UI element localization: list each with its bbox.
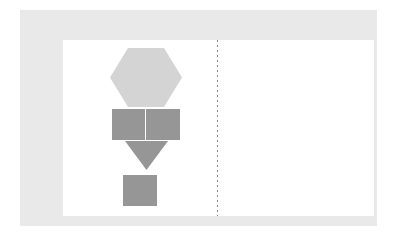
vertical-dotted-divider <box>217 40 218 216</box>
rectangle-left-shape[interactable] <box>112 109 145 140</box>
inner-artboard <box>63 40 374 216</box>
rectangle-right-shape[interactable] <box>146 109 180 140</box>
square-bottom-shape[interactable] <box>123 175 157 206</box>
shape-cluster <box>63 40 374 216</box>
triangle-down-shape[interactable] <box>125 141 168 170</box>
canvas-root <box>0 0 403 243</box>
hexagon-shape[interactable] <box>110 48 182 107</box>
outer-frame <box>20 10 377 226</box>
